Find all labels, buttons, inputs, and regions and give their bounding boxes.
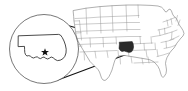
locator-map-svg — [0, 0, 188, 91]
locator-map-figure — [0, 0, 188, 91]
magnifier-inset — [10, 15, 79, 84]
united-states-map — [74, 5, 185, 81]
magnifier-circle — [10, 15, 79, 84]
highlighted-state-oklahoma[interactable] — [119, 42, 134, 53]
